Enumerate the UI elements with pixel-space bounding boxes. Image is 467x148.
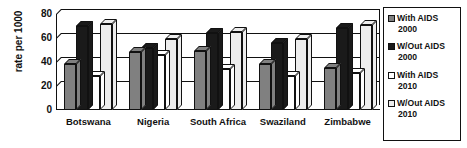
legend-label-line1: With AIDS	[397, 13, 438, 23]
bar-front-face	[259, 64, 271, 110]
legend-swatch-icon	[388, 43, 395, 50]
legend-item[interactable]: With AIDS2010	[388, 70, 457, 91]
chart-container: rate per 1000 020406080 BotswanaNigeriaS…	[0, 0, 467, 148]
legend-swatch-icon	[388, 15, 395, 22]
bar-group	[186, 14, 251, 110]
legend-label-line2: 2010	[397, 81, 438, 92]
y-axis-tick-label: 0	[26, 105, 52, 115]
bar-group	[56, 14, 121, 110]
legend-swatch-icon	[388, 72, 395, 79]
legend-label: With AIDS2010	[397, 70, 438, 91]
bar-side-face	[76, 59, 81, 110]
y-axis-tick-labels: 020406080	[20, 14, 52, 110]
y-axis-tick-label: 20	[26, 81, 52, 91]
chart-legend: With AIDS2000W/Out AIDS2000With AIDS2010…	[383, 7, 461, 141]
bar-side-face	[177, 34, 182, 110]
bar-side-face	[360, 68, 365, 110]
bar-side-face	[165, 50, 170, 110]
gridline	[61, 9, 380, 10]
x-axis-category-label: South Africa	[186, 116, 251, 127]
bar-side-face	[348, 23, 353, 110]
x-axis-category-label: Botswana	[56, 116, 121, 127]
bar-side-face	[88, 21, 93, 110]
legend-label: W/Out AIDS2000	[397, 41, 445, 62]
bar-side-face	[242, 27, 247, 110]
y-axis-tick-label: 60	[26, 33, 52, 43]
bar-side-face	[336, 63, 341, 110]
legend-item[interactable]: W/Out AIDS2000	[388, 41, 457, 62]
plot-area	[56, 14, 380, 110]
bar-side-face	[372, 20, 377, 110]
legend-label: With AIDS2000	[397, 13, 438, 34]
y-axis-tick-label: 80	[26, 9, 52, 19]
bar-side-face	[230, 64, 235, 110]
bar-side-face	[153, 43, 158, 110]
legend-label-line1: W/Out AIDS	[397, 98, 445, 108]
legend-label-line2: 2000	[397, 52, 445, 63]
legend-swatch-icon	[388, 100, 395, 107]
bar-front-face	[194, 51, 206, 110]
bar-side-face	[218, 28, 223, 110]
bar-series-group	[56, 14, 380, 110]
x-axis-category-label: Nigeria	[121, 116, 186, 127]
bar-front-face	[64, 64, 76, 110]
bar-group	[121, 14, 186, 110]
legend-item[interactable]: With AIDS2000	[388, 13, 457, 34]
bar-side-face	[206, 46, 211, 110]
legend-label-line2: 2010	[397, 109, 445, 120]
y-axis-tick-label: 40	[26, 57, 52, 67]
bar-side-face	[283, 38, 288, 110]
x-axis-category-label: Zimbabwe	[315, 116, 380, 127]
bar-side-face	[141, 47, 146, 110]
legend-label-line2: 2000	[397, 24, 438, 35]
legend-label: W/Out AIDS2010	[397, 98, 445, 119]
bar-front-face	[129, 52, 141, 110]
bar-side-face	[307, 34, 312, 110]
bar-side-face	[271, 59, 276, 110]
legend-label-line1: With AIDS	[397, 70, 438, 80]
bar-side-face	[112, 19, 117, 110]
bar-side-face	[295, 71, 300, 110]
legend-label-line1: W/Out AIDS	[397, 41, 445, 51]
x-axis-category-label: Swaziland	[250, 116, 315, 127]
bar-group	[315, 14, 380, 110]
bar-side-face	[100, 71, 105, 110]
bar-group	[250, 14, 315, 110]
bar-front-face	[324, 68, 336, 110]
legend-item[interactable]: W/Out AIDS2010	[388, 98, 457, 119]
